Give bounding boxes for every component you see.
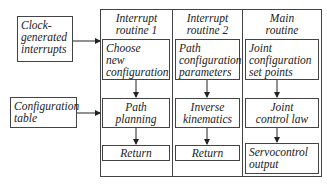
flow-arrows [0, 0, 327, 184]
